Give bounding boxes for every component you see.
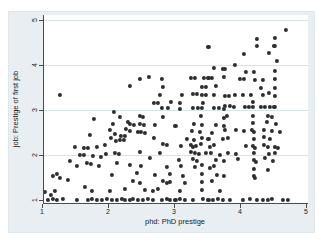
data-point: [215, 173, 219, 177]
data-point: [273, 36, 277, 40]
data-point: [255, 37, 259, 41]
data-point: [92, 117, 96, 121]
data-point: [113, 132, 117, 136]
data-point: [128, 129, 132, 133]
data-point: [214, 84, 218, 88]
data-point: [151, 198, 155, 202]
data-point: [156, 101, 160, 105]
data-point: [95, 198, 99, 202]
data-point: [86, 146, 90, 150]
data-point: [201, 101, 205, 105]
data-point: [123, 198, 127, 202]
data-point: [179, 144, 183, 148]
data-point: [262, 135, 266, 139]
data-point: [267, 91, 271, 95]
data-point: [276, 146, 280, 150]
data-point: [177, 158, 181, 162]
data-point: [185, 137, 189, 141]
data-point: [173, 198, 177, 202]
data-point: [266, 145, 270, 149]
data-point: [195, 159, 199, 163]
data-point: [136, 198, 140, 202]
data-point: [66, 178, 70, 182]
data-point: [190, 129, 194, 133]
data-point: [58, 93, 62, 97]
data-point: [110, 173, 114, 177]
y-tick-label: 5: [31, 18, 38, 22]
data-point: [206, 137, 210, 141]
x-tick-label: 1: [40, 208, 44, 215]
data-point: [206, 45, 210, 49]
y-tick-label: 4: [31, 63, 38, 67]
data-point: [281, 198, 285, 202]
data-point: [165, 165, 169, 169]
data-point: [108, 189, 112, 193]
data-point: [222, 174, 226, 178]
data-point: [161, 115, 165, 119]
data-point: [241, 198, 245, 202]
data-point: [261, 78, 265, 82]
data-point: [90, 197, 94, 201]
data-point: [244, 70, 248, 74]
data-point: [284, 28, 288, 32]
data-point: [115, 161, 119, 165]
data-point: [108, 128, 112, 132]
data-point: [180, 93, 184, 97]
data-point: [212, 93, 216, 97]
data-point: [201, 197, 205, 201]
data-point: [266, 168, 270, 172]
data-point: [169, 100, 173, 104]
x-axis-title: phd: PhD prestige: [145, 217, 205, 226]
data-point: [82, 153, 86, 157]
data-point: [211, 198, 215, 202]
data-point: [221, 198, 225, 202]
data-point: [270, 197, 274, 201]
data-point: [222, 159, 226, 163]
x-tick-label: 2: [106, 208, 110, 215]
data-point: [95, 145, 99, 149]
data-point: [271, 159, 275, 163]
data-point: [192, 122, 196, 126]
data-point: [61, 197, 65, 201]
data-point: [122, 138, 126, 142]
data-point: [178, 197, 182, 201]
data-point: [55, 198, 59, 202]
data-point: [226, 136, 230, 140]
data-point: [251, 114, 255, 118]
data-point: [178, 189, 182, 193]
data-point: [212, 66, 216, 70]
data-point: [249, 93, 253, 97]
data-point: [193, 76, 197, 80]
data-point: [223, 128, 227, 132]
data-point: [178, 101, 182, 105]
data-point: [286, 198, 290, 202]
y-axis-line: [43, 15, 44, 204]
data-point: [206, 198, 210, 202]
data-point: [242, 77, 246, 81]
data-point: [252, 70, 256, 74]
data-point: [273, 69, 277, 73]
data-point: [141, 198, 145, 202]
data-point: [252, 137, 256, 141]
data-point: [142, 123, 146, 127]
data-point: [202, 76, 206, 80]
data-point: [135, 171, 139, 175]
data-point: [216, 197, 220, 201]
data-point: [210, 131, 214, 135]
data-point: [200, 188, 204, 192]
data-point: [183, 198, 187, 202]
data-point: [204, 85, 208, 89]
y-axis-tick: [39, 20, 43, 21]
data-point: [183, 181, 187, 185]
data-point: [138, 150, 142, 154]
data-point: [274, 122, 278, 126]
data-point: [261, 198, 265, 202]
data-point: [156, 187, 160, 191]
data-point: [252, 130, 256, 134]
y-tick-label: 2: [31, 153, 38, 157]
data-point: [131, 179, 135, 183]
data-point: [218, 189, 222, 193]
data-point: [232, 105, 236, 109]
data-point: [252, 167, 256, 171]
data-point: [251, 121, 255, 125]
